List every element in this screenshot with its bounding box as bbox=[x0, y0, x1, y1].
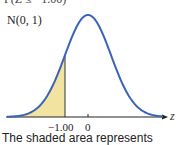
axis-z-label: z bbox=[170, 109, 175, 124]
normal-curve bbox=[7, 15, 163, 117]
normal-distribution-figure: P(Z ≤ −1.00) N(0, 1) z −1.00 0 The shade… bbox=[0, 0, 191, 145]
shaded-area bbox=[7, 55, 65, 117]
caption-text: The shaded area represents bbox=[2, 131, 153, 145]
normal-curve-plot bbox=[0, 0, 191, 145]
